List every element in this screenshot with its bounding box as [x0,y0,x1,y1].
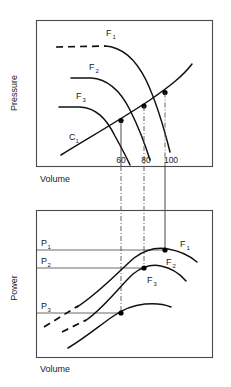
curve-label-f3-bottom: F 3 [147,275,158,287]
power-level-label-p1: P 1 [41,238,52,250]
curve-label-f3-top-base: F [76,91,82,101]
curve-label-f3-top-sub: 3 [83,97,87,103]
curve-label-f3-top: F 3 [76,91,87,103]
power-level-label-p3-sub: 3 [48,307,52,313]
fan-curve-figure: 60 80 100 F 1 F 2 F 3 C 1 Pressure Volum… [0,0,231,387]
bottom-chart-y-axis-title: Power [9,275,19,301]
operating-point-marker-p3 [118,310,123,315]
curve-label-f3-bottom-base: F [147,275,153,285]
curve-label-f2-top: F 2 [89,62,100,74]
xtick-label-80: 80 [141,155,151,165]
curve-label-f1-bottom-sub: 1 [187,245,191,251]
curve-f2 [71,78,150,160]
operating-point-marker-p2 [141,265,146,270]
power-level-label-p3: P 3 [41,301,52,313]
curve-label-f2-bottom: F 2 [166,257,177,269]
curve-label-f1-top-sub: 1 [113,34,117,40]
top-chart-frame [37,21,213,167]
bottom-chart-frame [37,211,213,358]
bottom-chart-x-axis-title: Volume [40,364,70,374]
curve-label-c1-top: C 1 [69,132,80,144]
xtick-label-100: 100 [164,155,178,165]
curve-label-f2-top-sub: 2 [96,68,100,74]
power-level-label-p3-base: P [41,301,47,311]
curve-label-c1-top-sub: 1 [76,138,80,144]
power-level-label-p1-sub: 1 [48,244,52,250]
operating-point-marker-p1 [162,247,167,252]
top-chart-x-axis-title: Volume [40,174,70,184]
curve-label-f2-bottom-base: F [166,257,172,267]
chart-connectors [121,166,165,313]
power-level-label-p2: P 2 [41,256,52,268]
power-level-label-p1-base: P [41,238,47,248]
power-volume-chart: P 1 P 2 P 3 F 1 F 2 F 3 Power Volume [9,211,213,375]
curve-f3-power [68,304,171,348]
xtick-label-60: 60 [116,155,126,165]
curve-label-f1-bottom: F 1 [180,239,191,251]
curve-label-f2-bottom-sub: 2 [173,263,177,269]
curve-label-f1-top: F 1 [106,28,117,40]
curve-label-f1-top-base: F [106,28,112,38]
top-chart-y-axis-title: Pressure [9,75,19,111]
curve-f1-power [77,248,197,307]
pressure-volume-chart: 60 80 100 F 1 F 2 F 3 C 1 Pressure Volum… [9,21,213,185]
curve-label-f1-bottom-base: F [180,239,186,249]
curve-label-f2-top-base: F [89,62,95,72]
curve-f1-dashed-segment [56,46,106,47]
curve-label-f3-bottom-sub: 3 [154,281,158,287]
power-level-label-p2-sub: 2 [48,262,52,268]
curve-f2-power-dashed [62,320,86,332]
power-level-label-p2-base: P [41,256,47,266]
